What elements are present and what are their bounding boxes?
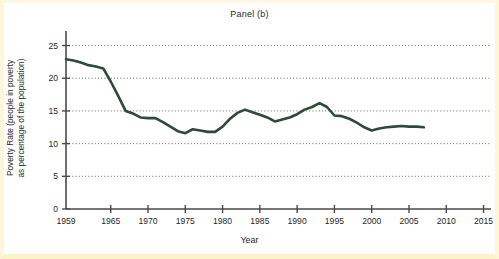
chart-plot-surface: Panel (b) Poverty Rate (people in povert…: [4, 3, 495, 254]
x-tick-label: 2000: [352, 216, 392, 226]
x-tick-label: 1959: [46, 216, 86, 226]
y-tick-label: 10: [36, 139, 58, 149]
y-tick-label: 0: [36, 204, 58, 214]
x-tick-label: 1995: [314, 216, 354, 226]
x-tick-label: 1985: [240, 216, 280, 226]
y-tick-label: 15: [36, 106, 58, 116]
figure-frame: Panel (b) Poverty Rate (people in povert…: [0, 0, 499, 259]
x-tick-label: 1990: [277, 216, 317, 226]
x-tick-label: 2010: [426, 216, 466, 226]
y-tick-label: 5: [36, 171, 58, 181]
gridlines-group: [66, 46, 491, 177]
poverty-rate-line: [66, 59, 424, 133]
x-tick-label: 2015: [464, 216, 499, 226]
y-tick-label: 25: [36, 41, 58, 51]
x-tick-label: 2005: [389, 216, 429, 226]
x-tick-label: 1965: [91, 216, 131, 226]
x-tick-label: 1980: [203, 216, 243, 226]
x-tick-label: 1975: [165, 216, 205, 226]
y-tick-label: 20: [36, 73, 58, 83]
x-tick-label: 1970: [128, 216, 168, 226]
axis-ticks-group: [62, 46, 484, 213]
